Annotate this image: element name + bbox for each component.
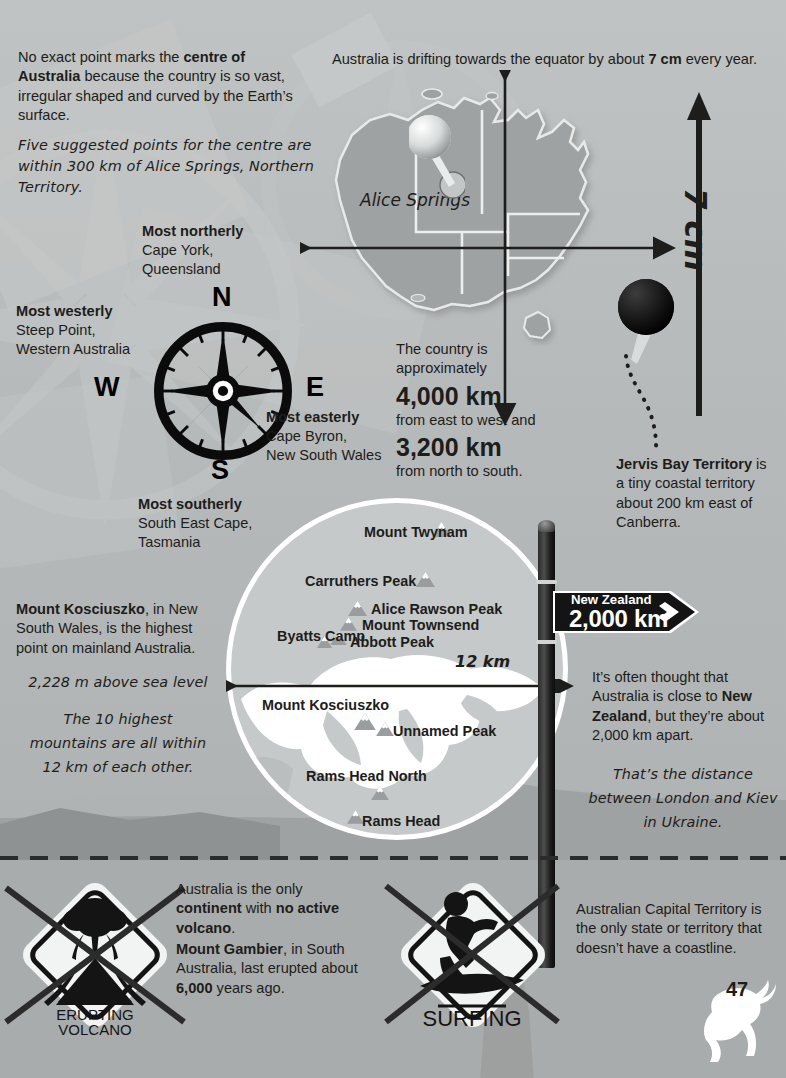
callout-line1: Cape Byron, [266, 427, 381, 446]
volcano-sign-line2: VOLCANO [58, 1021, 131, 1038]
surfing-sign-label: SURFING [423, 1006, 522, 1031]
jervis-bay-paragraph: Jervis Bay Territory is a tiny coastal t… [616, 455, 776, 532]
peak-label-rams-head-north: Rams Head North [306, 768, 427, 784]
compass-label-west: W [94, 372, 119, 403]
intro-note: Five suggested points for the centre are… [18, 135, 318, 198]
mountain-icon [348, 601, 367, 616]
drift-paragraph: Australia is drifting towards the equato… [332, 50, 782, 69]
scale-bar-12km [226, 679, 578, 693]
mountain-icon [416, 572, 435, 587]
peak-label-mount-townsend: Mount Townsend [362, 617, 479, 633]
volcano-text-a: Australia is the only [176, 881, 303, 897]
compass-label-east: E [306, 372, 324, 403]
callout-line2: New South Wales [266, 446, 381, 465]
dimensions-east-west: 4,000 km [396, 381, 586, 411]
mountain-icon [376, 722, 394, 736]
peak-label-byatts-camp: Byatts Camp [277, 628, 335, 645]
intro-text-a: No exact point marks the [18, 49, 183, 65]
signpost-ring [536, 640, 557, 644]
callout-line2: Western Australia [16, 340, 130, 359]
dimensions-north-south: 3,200 km [396, 432, 586, 462]
drift-arrow-label: 7 cm [678, 188, 714, 271]
dimensions-lead2: approximately [396, 359, 586, 378]
volcano-text-e: . [231, 920, 235, 936]
compass-label-north: N [212, 282, 232, 313]
gambier-years: 6,000 [176, 980, 213, 996]
drift-text-c: every year. [682, 51, 757, 67]
newzealand-note: That’s the distance between London and K… [588, 762, 778, 834]
callout-heading: Most westerly [16, 302, 130, 321]
surfing-paragraph: Australian Capital Territory is the only… [576, 900, 776, 958]
signpost-ring [536, 580, 557, 584]
page-number: 47 [726, 978, 748, 1001]
compass-label-south: S [211, 455, 229, 486]
drift-text-bold: 7 cm [648, 51, 681, 67]
peak-label-unnamed-peak: Unnamed Peak [393, 723, 496, 739]
infographic-page: No exact point marks the centre of Austr… [0, 0, 786, 1078]
mountain-icon [354, 713, 376, 730]
peak-label-carruthers-peak: Carruthers Peak [305, 573, 416, 589]
peak-label-alice-rawson-peak: Alice Rawson Peak [371, 601, 502, 617]
dimensions-mid: from east to west and [396, 411, 586, 430]
peak-label-mount-kosciuszko: Mount Kosciuszko [262, 697, 389, 713]
intro-paragraph: No exact point marks the centre of Austr… [18, 48, 308, 125]
peak-label-rams-head: Rams Head [362, 813, 440, 829]
peak-label-mount-twynam: Mount Twynam [364, 524, 468, 540]
callout-line1: Steep Point, [16, 321, 130, 340]
gambier-tail: years ago. [213, 980, 285, 996]
gambier-bold: Mount Gambier [176, 941, 283, 957]
kosciuszko-elevation: 2,228 m above sea level [20, 672, 216, 693]
dimensions-tail: from north to south. [396, 462, 586, 481]
volcano-text-b: continent [176, 900, 242, 916]
callout-most-easterly: Most easterly Cape Byron, New South Wale… [266, 408, 381, 465]
callout-most-northerly: Most northerly Cape York, Queensland [142, 222, 243, 279]
callout-heading: Most northerly [142, 222, 243, 241]
jervis-bay-bold: Jervis Bay Territory [616, 456, 752, 472]
no-erupting-volcano-sign: ERUPTING VOLCANO [2, 862, 188, 1048]
signpost-distance: 2,000 km [569, 605, 668, 633]
kosciuszko-bold: Mount Kosciuszko [16, 601, 145, 617]
callout-heading: Most easterly [266, 408, 381, 427]
no-surfing-sign: SURFING [378, 860, 566, 1048]
volcano-text-c: with [242, 900, 276, 916]
scale-label-12km: 12 km [455, 652, 510, 671]
newzealand-text-a: It’s often thought that Australia is clo… [592, 669, 728, 704]
mountain-icon [371, 786, 389, 800]
callout-most-westerly: Most westerly Steep Point, Western Austr… [16, 302, 130, 359]
newzealand-paragraph: It’s often thought that Australia is clo… [592, 668, 772, 745]
volcano-paragraph-1: Australia is the only continent with no … [176, 880, 361, 938]
drift-text-a: Australia is drifting towards the equato… [332, 51, 648, 67]
dimensions-lead1: The country is [396, 340, 586, 359]
mountain-cluster-circle [226, 498, 568, 840]
kosciuszko-paragraph: Mount Kosciuszko, in New South Wales, is… [16, 600, 212, 658]
dimensions-block: The country is approximately 4,000 km fr… [396, 340, 586, 481]
volcano-paragraph-2: Mount Gambier, in South Australia, last … [176, 940, 368, 998]
kosciuszko-note: The 10 highest mountains are all within … [28, 707, 208, 779]
snow-field-shape [231, 503, 563, 835]
callout-line1: Cape York, [142, 241, 243, 260]
signpost-cap [538, 520, 555, 532]
callout-line2: Queensland [142, 260, 243, 279]
